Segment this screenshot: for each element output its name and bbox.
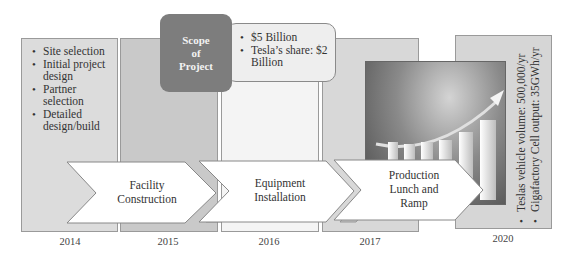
phase-label-line: Construction [105, 192, 189, 206]
phase-label-equipment-installation: Equipment Installation [238, 176, 322, 204]
phase-label-line: Installation [238, 190, 322, 204]
phase-label-facility-construction: Facility Construction [105, 178, 189, 206]
phase-label-line: Lunch and [372, 182, 456, 196]
phase-label-line: Facility [105, 178, 189, 192]
phase-chevrons [0, 0, 569, 257]
phase-label-production-ramp: Production Lunch and Ramp [372, 168, 456, 210]
phase-label-line: Ramp [372, 196, 456, 210]
phase-label-line: Equipment [238, 176, 322, 190]
phase-label-line: Production [372, 168, 456, 182]
